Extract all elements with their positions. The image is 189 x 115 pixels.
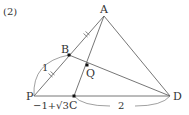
arc-CD-right [135,96,170,106]
segment-BD [69,55,170,96]
label-C: C [69,99,77,112]
segment-AD [104,16,170,96]
label-B: B [61,43,69,56]
geometry-figure: (2) A B Q C P D 1 −1+√3 2 [0,0,189,115]
measure-PB: 1 [42,62,48,73]
label-D: D [173,90,182,103]
problem-number: (2) [3,6,17,17]
label-A: A [99,3,109,16]
arc-CD-left [74,96,110,106]
label-Q: Q [86,67,95,80]
measure-CD: 2 [118,100,124,111]
point-C [73,95,76,98]
measure-PC: −1+√3 [33,100,69,111]
segment-AC [74,16,104,96]
